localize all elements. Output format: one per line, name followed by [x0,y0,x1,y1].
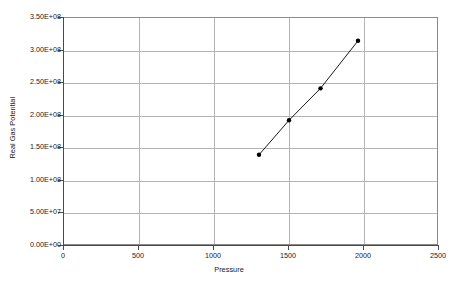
chart-root: 0.00E+005.00E+071.00E+081.50E+082.00E+08… [0,0,458,288]
x-axis-tick-mark [63,245,64,250]
y-axis-tick-label: 0.00E+00 [30,241,61,248]
x-axis-tick-mark [213,245,214,250]
y-axis-tick-label: 3.50E+08 [30,13,61,20]
x-axis-tick-mark [138,245,139,250]
y-axis-tick-label: 2.00E+08 [30,111,61,118]
x-axis-tick-mark [438,245,439,250]
gridline-horizontal [64,116,437,117]
gridline-vertical [139,18,140,244]
gridline-horizontal [64,213,437,214]
y-axis-title: Real Gas Potential [9,68,16,188]
y-axis-line [63,17,64,246]
x-axis-line [63,245,439,246]
data-point-marker [356,39,360,43]
gridline-vertical [364,18,365,244]
gridline-vertical [289,18,290,244]
x-axis-tick-label: 1500 [280,252,296,259]
y-axis-tick-label: 5.00E+07 [30,208,61,215]
x-axis-tick-label: 1000 [205,252,221,259]
gridline-horizontal [64,148,437,149]
data-point-marker [318,86,322,90]
plot-area [63,17,438,245]
x-axis-tick-label: 2000 [355,252,371,259]
y-axis-tick-label: 1.00E+08 [30,176,61,183]
gridline-horizontal [64,181,437,182]
data-point-marker [257,153,261,157]
x-axis-tick-mark [363,245,364,250]
series-polyline [259,41,358,155]
y-axis-tick-label: 1.50E+08 [30,143,61,150]
gridline-horizontal [64,83,437,84]
gridline-horizontal [64,51,437,52]
data-series-line [64,18,439,246]
x-axis-title: Pressure [0,266,458,273]
y-axis-tick-label: 2.50E+08 [30,78,61,85]
x-axis-tick-mark [288,245,289,250]
x-axis-tick-label: 0 [61,252,65,259]
x-axis-tick-label: 2500 [430,252,446,259]
gridline-vertical [214,18,215,244]
x-axis-tick-label: 500 [132,252,144,259]
y-axis-tick-label: 3.00E+08 [30,46,61,53]
